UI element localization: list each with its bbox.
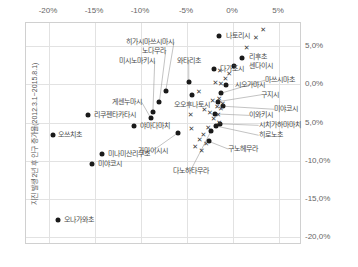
data-point-label: 리쿠젠타카타시 <box>94 111 136 118</box>
y-tick-label: -15,0% <box>305 194 330 203</box>
data-point-circle <box>189 92 194 97</box>
y-tick-label: 5,0% <box>305 117 323 126</box>
data-point-cross: ✕ <box>260 26 266 33</box>
data-point-label: 센다이시 <box>249 62 273 69</box>
data-point-circle <box>157 100 162 105</box>
data-point-label: 구노헤무라 <box>228 145 258 152</box>
data-point-circle <box>186 80 191 85</box>
data-point-label: 구지시 <box>261 91 279 98</box>
data-point-cross: ✕ <box>196 88 202 95</box>
data-point-circle <box>56 218 61 223</box>
data-point-label: 오쓰치초 <box>58 132 82 139</box>
data-point-circle <box>240 55 245 60</box>
data-point-label: 오오후나토시 <box>174 102 210 109</box>
x-tick-label: -15% <box>85 6 104 15</box>
gridline-vertical <box>187 23 188 243</box>
data-point-circle <box>90 162 95 167</box>
gridline-vertical <box>233 23 234 243</box>
data-point-cross: ✕ <box>189 126 195 133</box>
data-point-label: 다가조시 <box>220 65 244 72</box>
data-point-label: 히로노초 <box>259 132 283 139</box>
gridline-horizontal <box>26 199 300 200</box>
data-point-label: 오나가와초 <box>64 217 94 224</box>
y-axis-title: 지진 발생 2년 후 인구 증가율(2012.3.1~2015.8.1) <box>29 44 39 224</box>
data-point-circle <box>50 133 55 138</box>
gridline-horizontal <box>26 237 300 238</box>
gridline-horizontal <box>26 161 300 162</box>
data-point-cross: ✕ <box>253 35 259 42</box>
data-point-circle <box>217 33 222 38</box>
data-point-circle <box>100 151 105 156</box>
data-point-label: 나토리시 <box>226 32 250 39</box>
data-point-label: 미야코시 <box>98 161 122 168</box>
data-point-label: 마쓰시마초 <box>265 77 295 84</box>
data-point-cross: ✕ <box>218 81 224 88</box>
x-tick-label: -5% <box>179 6 193 15</box>
data-point-circle <box>149 116 154 121</box>
data-point-label: 게센누마시 <box>112 99 142 106</box>
scatter-chart: -20%-15%-10%-5%0%5% 5,0%0,0%5,0%-10,0%-1… <box>0 0 358 267</box>
y-tick-label: 0,0% <box>305 79 323 88</box>
data-point-cross: ✕ <box>188 112 194 119</box>
data-point-label: 시치가하마마치 <box>259 122 301 129</box>
gridline-vertical <box>141 23 142 243</box>
x-tick-label: 5% <box>272 6 284 15</box>
data-point-label: 미야코시 <box>274 106 298 113</box>
data-point-circle <box>86 112 91 117</box>
x-tick-label: 0% <box>226 6 238 15</box>
data-point-cross: ✕ <box>216 120 222 127</box>
data-point-cross: ✕ <box>199 147 205 154</box>
data-point-label: 이와키시 <box>249 112 273 119</box>
data-point-circle <box>211 66 216 71</box>
x-tick-label: -10% <box>131 6 150 15</box>
data-point-label: 시오가마시 <box>235 81 265 88</box>
data-point-label: 다노하타무라 <box>173 167 209 174</box>
gridline-vertical <box>95 23 96 243</box>
data-point-label: 미나미산리쿠초 <box>108 150 150 157</box>
y-tick-label: -10,0% <box>305 155 330 164</box>
data-point-label: 야마다마치 <box>140 122 170 129</box>
data-point-label: 미시노마키시 <box>119 57 155 64</box>
data-point-label: 와타리초 <box>177 57 201 64</box>
data-point-circle <box>150 110 155 115</box>
data-point-label: 리후초 <box>249 54 267 61</box>
data-point-circle <box>224 82 229 87</box>
data-point-cross: ✕ <box>244 45 250 52</box>
x-tick-label: -20% <box>39 6 58 15</box>
data-point-cross: ✕ <box>192 143 198 150</box>
data-point-circle <box>132 124 137 129</box>
data-point-label: 노다무라 <box>142 47 166 54</box>
data-point-circle <box>163 88 168 93</box>
y-tick-label: 5,0% <box>305 40 323 49</box>
data-point-circle <box>175 131 180 136</box>
y-tick-label: -20,0% <box>305 232 330 241</box>
data-point-label: 히가시마쓰시마시 <box>126 38 174 45</box>
